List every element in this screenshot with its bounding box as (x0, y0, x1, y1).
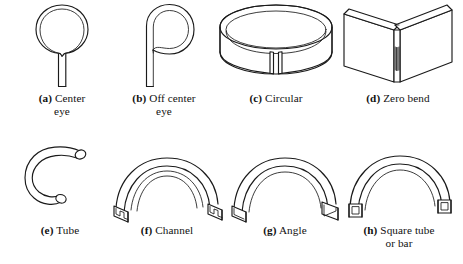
figure-caption-channel: (f) Channel (104, 224, 230, 237)
figure-label-f: (f) (141, 224, 152, 236)
figure-label-b: (b) (132, 92, 146, 104)
figure-caption-text-a-line2: eye (8, 105, 116, 118)
figure-caption-text-g-line1: Angle (279, 224, 307, 236)
zero-bend-plate-icon (338, 0, 458, 92)
figure-caption-text-a-line1: Center (55, 92, 85, 104)
figure-label-g: (g) (263, 224, 276, 236)
figure-caption-angle: (g) Angle (226, 224, 344, 237)
figure-label-d: (d) (366, 92, 380, 104)
bent-angle-section-icon (226, 132, 344, 224)
center-eye-loop-icon (8, 0, 116, 92)
figure-caption-circular: (c) Circular (212, 92, 340, 105)
figure-caption-text-d-line1: Zero bend (383, 92, 430, 104)
figure-caption-text-c-line1: Circular (265, 92, 302, 104)
circular-band-icon (212, 0, 340, 92)
figure-item-square-tube: (h) Square tube or bar (338, 132, 460, 264)
figure-label-a: (a) (39, 92, 52, 104)
bent-square-tube-icon (338, 132, 460, 224)
figure-item-zero-bend: (d) Zero bend (338, 0, 458, 132)
figure-caption-text-b-line1: Off center (149, 92, 195, 104)
figure-caption-zero-bend: (d) Zero bend (338, 92, 458, 105)
off-center-eye-loop-icon (110, 0, 218, 92)
figure-label-h: (h) (363, 224, 377, 236)
figure-item-circular: (c) Circular (212, 0, 340, 132)
figure-item-off-center-eye: (b) Off center eye (110, 0, 218, 132)
figure-row-bottom: (e) Tube (0, 132, 463, 264)
figure-label-e: (e) (41, 224, 54, 236)
figure-row-top: (a) Center eye (b) (0, 0, 463, 132)
figure-item-center-eye: (a) Center eye (8, 0, 116, 132)
figure-caption-off-center-eye: (b) Off center eye (110, 92, 218, 118)
bent-channel-section-icon (104, 132, 230, 224)
figure-item-channel: (f) Channel (104, 132, 230, 264)
figure-caption-square-tube: (h) Square tube or bar (338, 224, 460, 250)
figure-caption-text-h-line2: or bar (338, 237, 460, 250)
figure-label-c: (c) (249, 92, 262, 104)
bent-round-tube-icon (4, 132, 116, 224)
figure-caption-text-b-line2: eye (110, 105, 218, 118)
figure-caption-center-eye: (a) Center eye (8, 92, 116, 118)
figure-caption-tube: (e) Tube (4, 224, 116, 237)
bend-types-figure: (a) Center eye (b) (0, 0, 463, 264)
figure-item-tube: (e) Tube (4, 132, 116, 264)
figure-caption-text-h-line1: Square tube (380, 224, 434, 236)
figure-caption-text-e-line1: Tube (56, 224, 79, 236)
figure-caption-text-f-line1: Channel (155, 224, 193, 236)
figure-item-angle: (g) Angle (226, 132, 344, 264)
